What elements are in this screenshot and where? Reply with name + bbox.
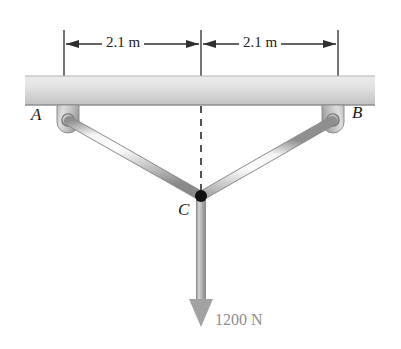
member-ac [69, 121, 201, 196]
load-label: 1200 N [215, 311, 263, 329]
engineering-diagram-figure: 2.1 m 2.1 m A B C 1200 N [0, 0, 401, 349]
arrowhead-left-start [66, 40, 79, 48]
ceiling-slab [25, 76, 375, 105]
point-label-b: B [352, 103, 362, 123]
dimension-label-left: 2.1 m [102, 34, 144, 51]
load-cable [197, 196, 206, 302]
load-arrowhead [189, 299, 213, 327]
diagram-canvas [0, 0, 401, 349]
point-label-c: C [178, 200, 189, 220]
joint-node-c [195, 190, 207, 202]
arrowhead-right-start [203, 40, 216, 48]
arrowhead-right-end [323, 40, 336, 48]
arrowhead-left-end [186, 40, 199, 48]
dimension-label-right: 2.1 m [239, 34, 281, 51]
member-bc [201, 121, 332, 196]
point-label-a: A [31, 105, 41, 125]
